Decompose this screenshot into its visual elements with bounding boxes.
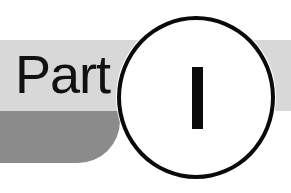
- part-label: Part: [15, 44, 110, 104]
- part-title-graphic: Part I: [0, 0, 291, 193]
- roman-numeral-one: I: [192, 67, 203, 129]
- dark-gray-band: [0, 111, 120, 163]
